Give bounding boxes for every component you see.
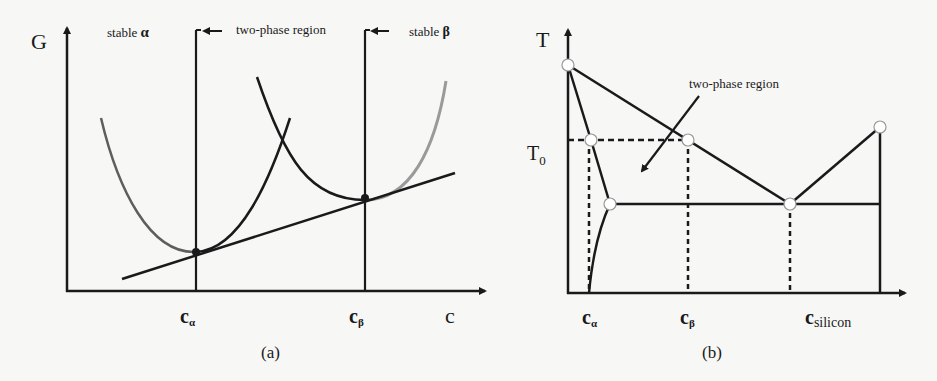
caption-b: (b)	[702, 344, 722, 361]
alpha-subscript: α	[189, 316, 195, 328]
zero-subscript: 0	[539, 153, 546, 168]
c-silicon-tick-label: csilicon	[805, 307, 851, 330]
stable-alpha-label: stable α	[107, 25, 149, 40]
common-tangent	[122, 173, 455, 279]
c-text: c	[582, 306, 591, 328]
alpha-subscript: α	[591, 317, 597, 329]
stable-alpha-text: stable	[107, 25, 137, 40]
panel-b-phase-diagram	[562, 30, 905, 294]
beta-symbol: β	[443, 24, 450, 39]
beta-curve-gray	[365, 81, 446, 200]
liquidus-right	[790, 127, 880, 204]
stable-beta-label: stable β	[409, 25, 450, 39]
two-phase-region-label-a: two-phase region	[236, 23, 326, 36]
t-axis-label: T	[536, 29, 549, 51]
caption-a: (a)	[261, 344, 280, 361]
melting-point-left	[562, 59, 574, 71]
c-text: c	[680, 306, 689, 328]
tangent-point-beta	[361, 194, 369, 202]
alpha-curve-gray	[101, 118, 196, 252]
alpha-curve-black	[196, 118, 290, 252]
c-text: c	[349, 305, 358, 327]
c-text: c	[180, 305, 189, 327]
two-phase-pointer-arrow	[642, 96, 699, 171]
g-axis-label: G	[31, 31, 47, 53]
c-beta-tick-label-a: cβ	[349, 306, 364, 328]
t0-label: T0	[527, 143, 546, 167]
silicon-subscript: silicon	[814, 315, 851, 330]
stable-beta-text: stable	[409, 24, 439, 39]
c-alpha-tick-label-a: cα	[180, 306, 195, 328]
solvus-curve	[589, 204, 610, 293]
c-axis-label: c	[445, 305, 455, 327]
c-alpha-tick-label-b: cα	[582, 307, 597, 329]
panel-a-gibbs-diagram	[66, 28, 485, 292]
diagram-canvas	[0, 0, 937, 381]
beta-subscript: β	[689, 317, 695, 329]
c-beta-tick-label-b: cβ	[680, 307, 695, 329]
alpha-symbol: α	[141, 24, 149, 40]
point-t0-alpha	[585, 134, 597, 146]
eutectic-point	[784, 198, 796, 210]
two-phase-region-label-b: two-phase region	[689, 77, 779, 90]
beta-curve-black	[257, 77, 365, 200]
beta-subscript: β	[358, 316, 364, 328]
tangent-point-alpha	[192, 248, 200, 256]
melting-point-silicon	[874, 121, 886, 133]
t-text: T	[527, 142, 539, 164]
point-solubility-limit	[604, 198, 616, 210]
point-t0-beta	[682, 134, 694, 146]
c-text: c	[805, 306, 814, 328]
